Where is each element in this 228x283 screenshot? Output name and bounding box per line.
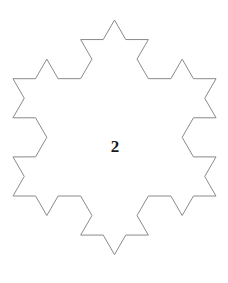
iteration-number-label: 2 [1,138,228,155]
koch-snowflake-figure: 2 [0,0,228,283]
